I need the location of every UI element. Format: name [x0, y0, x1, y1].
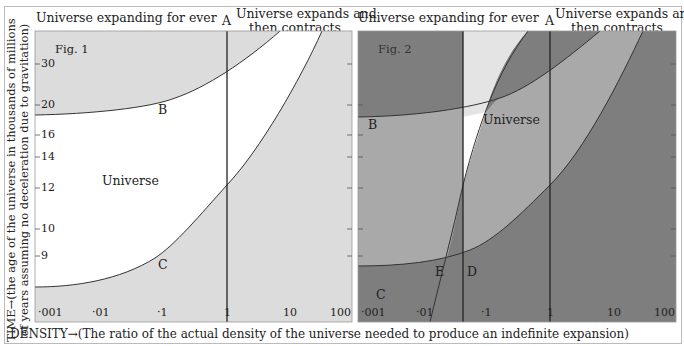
fig2-title: Fig. 2: [378, 42, 412, 56]
fig2-xtick: ·001: [361, 306, 386, 320]
fig2-xtick: 1: [547, 306, 554, 320]
fig1-xtick: 100: [330, 306, 351, 320]
fig2-label-b: B: [368, 118, 377, 132]
fig2-xtick: 100: [654, 306, 675, 320]
fig1-label-c: C: [158, 258, 168, 272]
fig1-ytick: 12: [41, 181, 55, 195]
fig1-xtick: ·1: [157, 306, 168, 320]
fig1-label-universe: Universe: [102, 174, 159, 188]
x-axis-label: DENSITY→(The ratio of the actual density…: [10, 327, 629, 341]
fig1-ytick: 10: [41, 222, 55, 236]
fig1-label-b: B: [158, 103, 167, 117]
fig1-xtick: ·01: [92, 306, 110, 320]
fig2-label-e: E: [435, 265, 444, 279]
fig2-xtick: ·1: [481, 306, 492, 320]
fig2-xtick: ·01: [416, 306, 434, 320]
fig1-ytick: 16: [41, 128, 55, 142]
fig1-xtick: 10: [283, 306, 297, 320]
y-axis-label-line1: TIME→(the age of the universe in thousan…: [4, 18, 18, 342]
fig2-label-universe: Universe: [483, 113, 540, 127]
fig2-xtick: 10: [607, 306, 621, 320]
fig1-plot: [35, 31, 352, 322]
fig2-label-c: C: [376, 288, 386, 302]
fig2-label-d: D: [467, 265, 477, 279]
fig1-title: Fig. 1: [55, 42, 89, 56]
y-axis-label: TIME→(the age of the universe in thousan…: [2, 30, 34, 330]
fig1-xtick: 1: [224, 306, 231, 320]
fig1-ytick: 9: [41, 249, 48, 263]
fig1-ytick: 30: [41, 57, 55, 71]
fig2-plot: [358, 31, 676, 330]
fig1-ytick: 20: [41, 98, 55, 112]
y-axis-label-line2: of years assuming no deceleration due to…: [17, 24, 31, 337]
fig1-xtick: ·001: [38, 306, 63, 320]
fig1-ytick: 14: [41, 150, 55, 164]
